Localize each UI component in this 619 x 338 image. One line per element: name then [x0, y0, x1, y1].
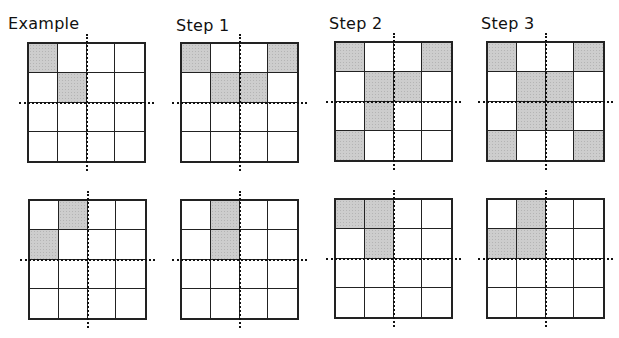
grid-cell — [546, 200, 575, 229]
grid-cell — [336, 72, 365, 101]
grid-cell-shaded — [517, 200, 546, 229]
grid-cell-shaded — [336, 43, 365, 72]
grid-cell-shaded — [422, 43, 451, 72]
grid-cell — [365, 43, 394, 72]
grid-cell — [182, 73, 211, 102]
grid-cell-shaded — [365, 229, 394, 258]
grid-cell — [517, 259, 546, 288]
grid-cell — [240, 132, 269, 161]
grid-cell-shaded — [488, 131, 517, 160]
grid-cell — [422, 131, 451, 160]
grid-cell — [211, 260, 240, 289]
grid-cell — [58, 44, 87, 73]
grid-cell-shaded — [58, 73, 87, 102]
grid-cell — [240, 201, 269, 230]
grid-cell — [115, 132, 144, 161]
grid-cell — [268, 132, 297, 161]
grid-cell-shaded — [240, 73, 269, 102]
grid-cell — [58, 132, 87, 161]
grid-cell — [517, 131, 546, 160]
grid-cell — [182, 103, 211, 132]
horizontal-symmetry-axis — [172, 259, 307, 261]
grid-cell-shaded — [517, 72, 546, 101]
grid-cell — [115, 73, 144, 102]
grid-cell-shaded — [365, 72, 394, 101]
grid-cell — [30, 201, 59, 230]
grid-cell-shaded — [517, 102, 546, 131]
grid-cell — [488, 288, 517, 317]
grid-cell — [574, 200, 603, 229]
grid-cell — [87, 103, 116, 132]
grid-cell — [182, 230, 211, 259]
grid-cell — [59, 289, 88, 318]
grid-cell — [422, 259, 451, 288]
grid-cell — [546, 259, 575, 288]
grid-cell — [116, 260, 145, 289]
grid-cell — [517, 288, 546, 317]
grid-cell — [336, 288, 365, 317]
grid-cell — [240, 44, 269, 73]
grid-cell — [268, 289, 297, 318]
grid-cell — [517, 43, 546, 72]
grid-cell — [422, 102, 451, 131]
grid-cell — [394, 288, 423, 317]
grid-cell — [182, 260, 211, 289]
grid-cell-shaded — [336, 131, 365, 160]
grid-cell — [240, 260, 269, 289]
grid-cell — [88, 230, 117, 259]
grid-cell — [182, 201, 211, 230]
grid-cell — [115, 103, 144, 132]
grid-cell — [88, 289, 117, 318]
grid-cell — [87, 44, 116, 73]
grid-cell-shaded — [488, 43, 517, 72]
grid-cell — [88, 260, 117, 289]
grid-cell-shaded — [517, 229, 546, 258]
grid-cell — [268, 260, 297, 289]
horizontal-symmetry-axis — [326, 258, 461, 260]
grid-cell — [30, 289, 59, 318]
grid-cell — [546, 288, 575, 317]
grid-cell — [30, 260, 59, 289]
grid-cell — [574, 72, 603, 101]
grid-cell-shaded — [574, 131, 603, 160]
grid-cell — [268, 201, 297, 230]
grid-cell-shaded — [546, 102, 575, 131]
grid-cell — [488, 72, 517, 101]
grid-cell — [394, 43, 423, 72]
grid-cell-shaded — [182, 44, 211, 73]
grid-cell — [422, 288, 451, 317]
grid-cell — [574, 288, 603, 317]
grid-cell — [182, 132, 211, 161]
label-step-3: Step 3 — [481, 14, 535, 33]
grid-cell — [365, 131, 394, 160]
grid-cell-shaded — [211, 201, 240, 230]
grid-cell — [59, 230, 88, 259]
grid-cell — [574, 259, 603, 288]
grid-cell-shaded — [268, 44, 297, 73]
grid-cell — [574, 102, 603, 131]
grid-cell — [116, 201, 145, 230]
grid-cell — [240, 103, 269, 132]
grid-cell — [422, 72, 451, 101]
grid-cell-shaded — [211, 230, 240, 259]
grid-cell — [240, 289, 269, 318]
grid-cell — [115, 44, 144, 73]
horizontal-symmetry-axis — [326, 101, 461, 103]
grid-cell — [488, 259, 517, 288]
grid-cell — [88, 201, 117, 230]
grid-cell — [394, 200, 423, 229]
grid-cell-shaded — [546, 72, 575, 101]
grid-cell — [336, 102, 365, 131]
grid-cell — [336, 229, 365, 258]
grid-cell — [116, 289, 145, 318]
grid-cell — [240, 230, 269, 259]
grid-cell — [58, 103, 87, 132]
grid-cell — [394, 102, 423, 131]
grid-cell — [29, 132, 58, 161]
grid-cell — [29, 73, 58, 102]
grid-cell — [182, 289, 211, 318]
grid-cell — [422, 229, 451, 258]
grid-cell — [488, 200, 517, 229]
grid-cell — [29, 103, 58, 132]
grid-cell-shaded — [365, 102, 394, 131]
